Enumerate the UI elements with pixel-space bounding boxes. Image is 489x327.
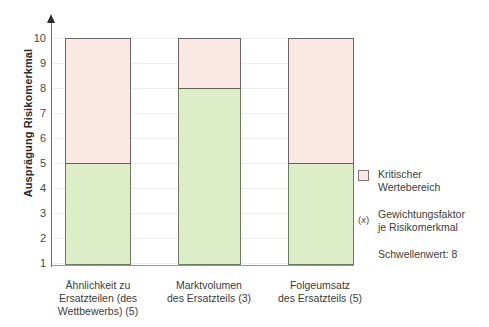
chart-legend: Kritischer Wertebereich (x) Gewichtungsf… [358, 168, 489, 261]
x-category-label-line: des Ersatzteils (5) [268, 292, 372, 305]
x-category-label-line: des Ersatzteils (3) [157, 292, 261, 305]
bar-group [65, 38, 131, 265]
weighting-factor-marker: (x) [358, 214, 369, 226]
legend-label-line: Wertebereich [378, 181, 440, 194]
x-category-label: Marktvolumen des Ersatzteils (3) [157, 279, 261, 305]
bar-segment-value [178, 88, 241, 265]
bar-segment-value [65, 163, 131, 265]
bar-segment-value [288, 163, 354, 265]
y-tick-label: 8 [20, 83, 46, 94]
x-category-label: Ähnlichkeit zu Ersatzteilen (des Wettbew… [46, 279, 150, 318]
x-category-label-line: Ersatzteilen (des [46, 292, 150, 305]
y-tick-label: 10 [20, 33, 46, 44]
legend-label-line: Kritischer [378, 168, 440, 181]
y-tick-label: 9 [20, 58, 46, 69]
legend-label-line: Gewichtungsfaktor [378, 208, 465, 221]
x-axis-baseline [52, 265, 354, 266]
legend-item-weighting-factor: (x) Gewichtungsfaktor je Risikomerkmal [358, 208, 489, 233]
y-tick-label: 2 [20, 233, 46, 244]
threshold-note: Schwellenwert: 8 [378, 248, 489, 261]
risk-characteristic-bar-chart: Ausprägung Risikomerkmal 10 9 [0, 0, 489, 327]
y-tick-label: 5 [20, 158, 46, 169]
y-tick-label: 4 [20, 183, 46, 194]
critical-range-swatch-icon [358, 170, 369, 181]
y-tick-label: 3 [20, 208, 46, 219]
y-tick-label: 1 [20, 258, 46, 269]
x-category-label: Folgeumsatz des Ersatzteils (5) [268, 279, 372, 305]
legend-item-label: Kritischer Wertebereich [378, 168, 440, 193]
y-axis-arrow-icon [47, 14, 55, 23]
x-category-label-line: Wettbewerbs) (5) [46, 305, 150, 318]
legend-label-line: je Risikomerkmal [378, 221, 465, 234]
x-category-label-line: Marktvolumen [157, 279, 261, 292]
plot-area [52, 38, 354, 265]
bar-segment-critical [178, 38, 241, 89]
bar-group [288, 38, 354, 265]
legend-item-critical-range: Kritischer Wertebereich [358, 168, 489, 193]
y-tick-label: 7 [20, 108, 46, 119]
bar-segment-critical [288, 38, 354, 164]
legend-item-label: Gewichtungsfaktor je Risikomerkmal [378, 208, 465, 233]
y-tick-label: 6 [20, 133, 46, 144]
x-category-label-line: Ähnlichkeit zu [46, 279, 150, 292]
bar-segment-critical [65, 38, 131, 164]
x-category-label-line: Folgeumsatz [268, 279, 372, 292]
bar-group [178, 38, 241, 265]
